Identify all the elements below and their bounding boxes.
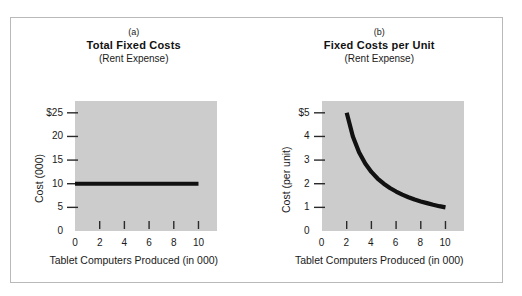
panel-a-y-tick-label: $25 [17, 108, 63, 118]
panel-b-tick-marks [314, 113, 445, 229]
panel-a-x-tick-label: 10 [183, 238, 213, 248]
panel-b-x-tick-label: 10 [430, 238, 460, 248]
chart-panel-b: (b) Fixed Costs per Unit (Rent Expense) … [257, 18, 503, 282]
panel-a-plot-wrap: 05101520$25 0246810 Cost (000) Tablet Co… [11, 18, 257, 282]
panel-b-x-axis-title: Tablet Computers Produced (in 000) [257, 254, 503, 267]
panel-b-data-curve [346, 113, 445, 208]
panel-b-y-axis-title: Cost (per unit) [280, 146, 292, 213]
panel-b-y-tick-label: 0 [264, 226, 310, 236]
panel-a-x-axis-title: Tablet Computers Produced (in 000) [11, 254, 257, 267]
panel-b-y-tick-label: $5 [264, 108, 310, 118]
figure-frame: (a) Total Fixed Costs (Rent Expense) 051… [10, 17, 503, 283]
panel-b-y-tick-label: 4 [264, 131, 310, 141]
chart-panel-a: (a) Total Fixed Costs (Rent Expense) 051… [11, 18, 257, 282]
panel-a-tick-marks [67, 113, 198, 229]
panel-container: (a) Total Fixed Costs (Rent Expense) 051… [11, 18, 502, 282]
panel-a-y-tick-label: 20 [17, 131, 63, 141]
panel-a-y-axis-title: Cost (000) [33, 154, 45, 203]
panel-b-plot-wrap: 01234$5 0246810 Cost (per unit) Tablet C… [257, 18, 503, 282]
panel-a-y-tick-label: 5 [17, 202, 63, 212]
panel-a-y-tick-label: 0 [17, 226, 63, 236]
